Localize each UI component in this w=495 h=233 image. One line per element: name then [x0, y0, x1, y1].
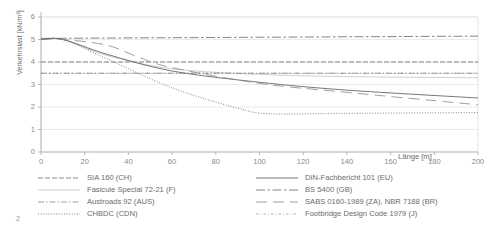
plot-area: Verkehrslast [kN/m²] Länge [m] 012345602… [0, 0, 495, 166]
y-axis-tick: 2 [21, 102, 35, 111]
x-axis-tick: 180 [423, 157, 445, 166]
legend-item: SABS 0160-1989 (ZA), NBR 7188 (BR) [256, 196, 438, 208]
legend-item: SIA 160 (CH) [38, 172, 176, 184]
x-axis-tick: 80 [205, 157, 227, 166]
x-axis-tick: 20 [74, 157, 96, 166]
legend-line-swatch [38, 173, 80, 183]
legend-item: BS 5400 (GB) [256, 184, 438, 196]
y-axis-tick: 3 [21, 80, 35, 89]
legend-label: DIN-Fachbericht 101 (EU) [305, 173, 393, 183]
legend-column-left: SIA 160 (CH)Fasicule Special 72-21 (F)Au… [38, 172, 176, 220]
chart-series-line [41, 38, 478, 114]
x-axis-tick: 120 [292, 157, 314, 166]
legend-line-swatch [256, 185, 298, 195]
chart-canvas [0, 0, 495, 166]
chart-series-line [41, 39, 478, 105]
legend-item: DIN-Fachbericht 101 (EU) [256, 172, 438, 184]
legend-line-swatch [256, 173, 298, 183]
legend-item: Austroads 92 (AUS) [38, 196, 176, 208]
legend-label: SABS 0160-1989 (ZA), NBR 7188 (BR) [305, 197, 438, 207]
legend-column-right: DIN-Fachbericht 101 (EU)BS 5400 (GB)SABS… [256, 172, 438, 220]
legend-line-swatch [38, 209, 80, 219]
y-axis-tick: 5 [21, 35, 35, 44]
y-axis-tick: 0 [21, 147, 35, 156]
legend-line-swatch [38, 185, 80, 195]
legend-label: BS 5400 (GB) [305, 185, 352, 195]
chart-page: Verkehrslast [kN/m²] Länge [m] 012345602… [0, 0, 495, 233]
page-number: 2 [16, 214, 20, 223]
chart-legend: SIA 160 (CH)Fasicule Special 72-21 (F)Au… [0, 172, 495, 220]
chart-series-line [41, 36, 478, 38]
y-axis-tick: 4 [21, 57, 35, 66]
x-axis-tick: 160 [380, 157, 402, 166]
legend-item: Footbridge Design Code 1979 (J) [256, 208, 438, 220]
y-axis-tick: 6 [21, 12, 35, 21]
legend-label: Footbridge Design Code 1979 (J) [305, 209, 417, 219]
x-axis-tick: 60 [161, 157, 183, 166]
chart-series-line [41, 38, 478, 77]
legend-label: Austroads 92 (AUS) [87, 197, 155, 207]
x-axis-tick: 140 [336, 157, 358, 166]
chart-series-line [41, 38, 478, 98]
x-axis-tick: 0 [30, 157, 52, 166]
y-axis-tick: 1 [21, 125, 35, 134]
x-axis-tick: 40 [117, 157, 139, 166]
x-axis-tick: 100 [249, 157, 271, 166]
legend-line-swatch [256, 209, 298, 219]
legend-line-swatch [38, 197, 80, 207]
legend-label: SIA 160 (CH) [87, 173, 132, 183]
legend-label: CHBDC (CDN) [87, 209, 138, 219]
legend-item: Fasicule Special 72-21 (F) [38, 184, 176, 196]
legend-item: CHBDC (CDN) [38, 208, 176, 220]
x-axis-tick: 200 [467, 157, 489, 166]
legend-label: Fasicule Special 72-21 (F) [87, 185, 176, 195]
legend-line-swatch [256, 197, 298, 207]
